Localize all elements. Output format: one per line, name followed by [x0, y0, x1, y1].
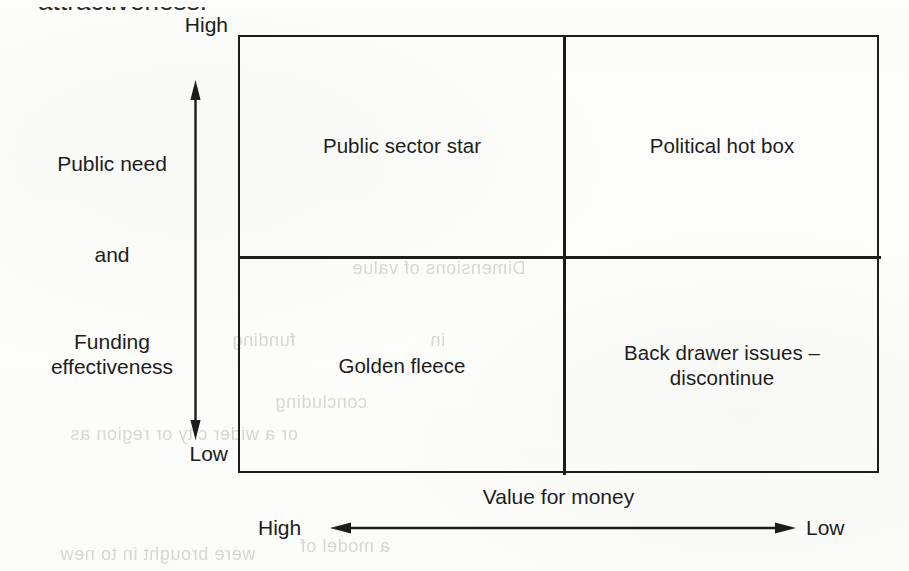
- matrix-cell-label-line-1: Back drawer issues –: [624, 341, 820, 364]
- matrix-cell-label: Political hot box: [650, 134, 794, 159]
- matrix-cell-label-wrapper: Back drawer issues – discontinue: [624, 341, 820, 390]
- matrix-cell-label: Public sector star: [323, 134, 481, 159]
- matrix-cell-political-hot-box: Political hot box: [565, 37, 879, 256]
- y-axis-title-word-effectiveness: effectiveness: [51, 355, 173, 378]
- y-axis-title-line-3: Funding effectiveness: [8, 330, 216, 380]
- matrix-cell-golden-fleece: Golden fleece: [240, 259, 564, 473]
- y-axis-title-line-2: and: [8, 243, 216, 268]
- x-axis-tick-low: Low: [806, 516, 845, 540]
- matrix-cell-public-sector-star: Public sector star: [240, 37, 564, 256]
- y-axis-tick-low: Low: [120, 442, 228, 466]
- x-axis-double-arrow: [330, 520, 796, 536]
- matrix-cell-label: Golden fleece: [338, 354, 465, 379]
- crop-edge-mask: [0, 0, 909, 7]
- matrix-cell-back-drawer-issues: Back drawer issues – discontinue: [565, 259, 879, 473]
- x-axis-title: Value for money: [238, 485, 879, 509]
- show-through-text: a model of: [300, 536, 390, 557]
- y-axis-tick-high: High: [120, 13, 228, 37]
- show-through-text: were brought in to new: [60, 544, 255, 565]
- two-by-two-matrix: Public sector star Political hot box Gol…: [238, 35, 879, 473]
- x-axis-tick-high: High: [258, 516, 301, 540]
- y-axis-title-word-funding: Funding: [74, 330, 150, 353]
- diagram-page: Dimensions of value funding in concludin…: [0, 0, 909, 571]
- matrix-cell-label-line-2: discontinue: [670, 366, 774, 389]
- y-axis-title-line-1: Public need: [8, 152, 216, 177]
